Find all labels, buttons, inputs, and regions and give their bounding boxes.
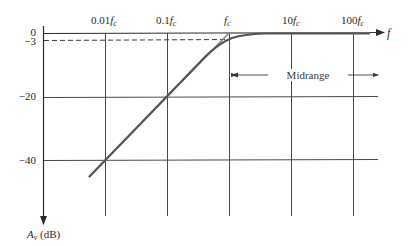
vertical-gridlines — [106, 33, 354, 216]
x-tick-fc: fc — [224, 15, 231, 28]
horizontal-gridlines — [43, 97, 378, 161]
y-tick-minus3: −3 — [6, 36, 36, 47]
minus3db-dashed-line — [44, 40, 229, 41]
midrange-arrowhead-left — [231, 73, 238, 78]
x-tick-0.01fc: 0.01fc — [91, 15, 117, 28]
gridline-minus40 — [43, 160, 378, 161]
x-tick-0.1fc: 0.1fc — [156, 15, 176, 28]
bode-plot — [0, 0, 409, 246]
y-axis-label: Av (dB) — [27, 229, 60, 242]
midrange-label: Midrange — [268, 69, 348, 81]
x-tick-10fc: 10fc — [282, 15, 300, 28]
y-tick-minus40: −40 — [6, 155, 36, 166]
x-tick-100fc: 100fc — [341, 15, 364, 28]
y-tick-minus20: −20 — [6, 91, 36, 102]
x-axis-label: f — [387, 27, 390, 39]
gridline-minus20 — [43, 97, 378, 98]
